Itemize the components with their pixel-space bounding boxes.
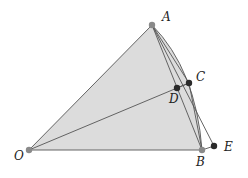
label-D: D bbox=[168, 92, 179, 106]
point-O bbox=[26, 147, 32, 153]
label-E: E bbox=[223, 140, 233, 154]
point-B bbox=[199, 147, 205, 153]
label-A: A bbox=[161, 10, 171, 24]
point-D bbox=[174, 85, 180, 91]
geometry-diagram: O A B C D E bbox=[0, 0, 248, 178]
label-O: O bbox=[14, 149, 24, 163]
point-A bbox=[149, 22, 155, 28]
label-B: B bbox=[195, 155, 205, 169]
point-E bbox=[211, 143, 217, 149]
point-C bbox=[186, 80, 192, 86]
label-C: C bbox=[196, 70, 205, 84]
